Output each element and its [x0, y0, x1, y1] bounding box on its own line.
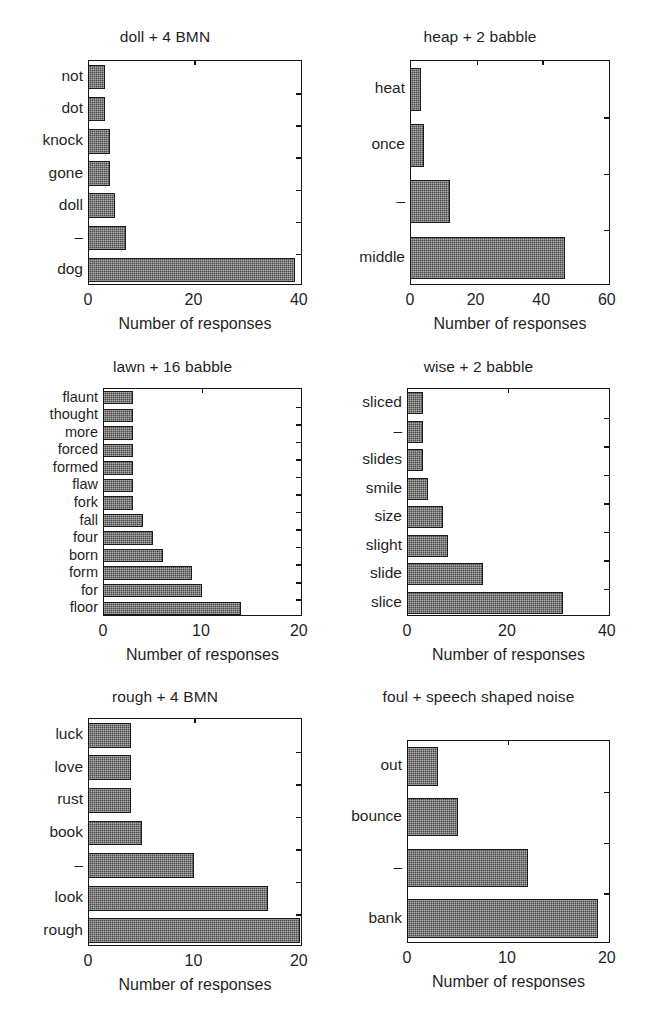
bar: [408, 747, 438, 786]
y-tick-label: out: [380, 758, 402, 774]
y-tick-label: forced: [58, 442, 98, 457]
x-axis-title: Number of responses: [28, 316, 362, 332]
bar: [89, 97, 105, 121]
bar: [408, 449, 423, 471]
bar: [408, 392, 423, 414]
x-tick-top: [477, 61, 479, 65]
y-tick-label: form: [69, 565, 98, 580]
x-tick-label: 20: [467, 292, 485, 308]
x-tick-label: 10: [498, 950, 516, 966]
bar: [104, 549, 163, 562]
y-tick-label: middle: [359, 249, 405, 265]
y-tick-label: sliced: [362, 395, 402, 411]
y-tick-label: heat: [375, 80, 405, 96]
x-tick-label: 0: [403, 623, 412, 639]
x-tick-top: [202, 389, 204, 393]
y-tick-label: for: [81, 582, 98, 597]
y-tick-label: bounce: [351, 808, 402, 824]
bar: [104, 514, 143, 527]
y-tick-label: love: [55, 759, 83, 775]
bar: [89, 161, 110, 185]
plot-area: [407, 740, 610, 943]
y-tick-label: –: [74, 229, 83, 245]
bar: [89, 821, 142, 846]
y-tick-right: [296, 93, 301, 95]
y-tick-right: [296, 494, 301, 496]
y-tick-right: [296, 442, 301, 444]
y-tick-right: [604, 117, 609, 119]
y-tick-label: fork: [74, 495, 98, 510]
y-tick-right: [296, 459, 301, 461]
bar: [408, 592, 563, 614]
y-tick-label: slice: [371, 594, 402, 610]
plot-area: [88, 60, 302, 285]
x-tick-label: 20: [290, 953, 308, 969]
plot-area: [407, 388, 610, 616]
chart-panel-heap-2-babble: heap + 2 babbleheatonce–middle0204060Num…: [0, 0, 650, 1020]
x-tick-label: 0: [99, 623, 108, 639]
y-tick-right: [604, 532, 609, 534]
bar: [89, 193, 115, 217]
bar: [104, 426, 133, 439]
y-tick-label: gone: [49, 165, 83, 181]
y-tick-right: [604, 446, 609, 448]
y-tick-right: [604, 589, 609, 591]
y-tick-right: [296, 784, 301, 786]
y-tick-right: [296, 190, 301, 192]
x-tick-label: 0: [84, 953, 93, 969]
y-axis-labels: luckloverustbook–lookrough: [0, 718, 83, 946]
bar: [408, 421, 423, 443]
y-axis-labels: outbounce–bank: [0, 740, 402, 943]
y-tick-label: thought: [50, 407, 98, 422]
y-tick-label: –: [393, 859, 402, 875]
y-tick-right: [296, 529, 301, 531]
y-tick-label: slide: [370, 566, 402, 582]
y-tick-label: –: [396, 193, 405, 209]
bar: [104, 602, 241, 615]
figure-grid: doll + 4 BMNnotdotknockgonedoll–dog02040…: [0, 0, 650, 1020]
x-tick-label: 60: [598, 292, 616, 308]
chart-title: heap + 2 babble: [320, 27, 640, 46]
x-axis-title: Number of responses: [28, 977, 362, 993]
y-tick-label: smile: [366, 480, 402, 496]
x-tick-top: [194, 719, 196, 723]
y-tick-right: [296, 752, 301, 754]
y-tick-right: [604, 503, 609, 505]
y-tick-label: flaw: [72, 477, 98, 492]
y-tick-right: [296, 512, 301, 514]
y-tick-right: [296, 849, 301, 851]
chart-title: foul + speech shaped noise: [317, 687, 640, 706]
y-tick-label: once: [371, 137, 405, 153]
y-tick-label: formed: [53, 460, 98, 475]
y-tick-label: look: [55, 889, 83, 905]
y-tick-label: slight: [366, 537, 402, 553]
y-tick-label: knock: [43, 133, 84, 149]
bar: [104, 566, 192, 579]
y-tick-right: [604, 843, 609, 845]
bar: [104, 531, 153, 544]
bar: [104, 479, 133, 492]
y-tick-right: [296, 599, 301, 601]
bar: [104, 444, 133, 457]
y-tick-label: doll: [59, 197, 83, 213]
y-tick-right: [604, 174, 609, 176]
y-tick-right: [296, 407, 301, 409]
bar: [408, 563, 483, 585]
bar: [89, 129, 110, 153]
y-tick-label: born: [69, 547, 98, 562]
bar: [411, 124, 424, 167]
chart-panel-doll-4-bmn: doll + 4 BMNnotdotknockgonedoll–dog02040…: [0, 0, 650, 1020]
y-tick-label: size: [374, 509, 402, 525]
bar: [104, 391, 133, 404]
y-tick-label: flaunt: [63, 390, 98, 405]
y-tick-right: [604, 893, 609, 895]
bar: [104, 496, 133, 509]
chart-title: rough + 4 BMN: [0, 687, 332, 706]
bar: [411, 180, 450, 223]
x-tick-label: 20: [598, 950, 616, 966]
y-tick-right: [296, 582, 301, 584]
bar: [89, 755, 131, 780]
y-tick-label: floor: [70, 600, 98, 615]
y-tick-label: fall: [79, 512, 98, 527]
y-tick-label: dog: [57, 261, 83, 277]
